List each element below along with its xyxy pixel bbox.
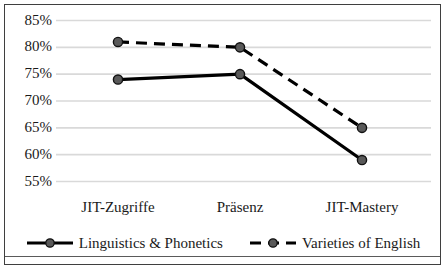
data-point-marker (357, 123, 366, 132)
series-line-2 (118, 42, 362, 128)
x-tick-label: JIT-Zugriffe (48, 199, 188, 215)
y-tick-label: 55% (8, 174, 52, 189)
y-tick-label: 60% (8, 147, 52, 162)
data-point-marker (113, 37, 122, 46)
legend-label: Varieties of English (302, 235, 420, 251)
data-point-marker (235, 43, 244, 52)
y-tick-label: 80% (8, 39, 52, 54)
legend-separator (5, 256, 440, 257)
legend-swatch (249, 236, 297, 250)
legend-swatch (26, 236, 74, 250)
legend-item-2: Varieties of English (249, 235, 420, 251)
data-point-marker (113, 75, 122, 84)
legend-label: Linguistics & Phonetics (79, 235, 223, 251)
y-tick-label: 70% (8, 93, 52, 108)
chart-figure: 85%80%75%70%65%60%55% JIT-ZugriffePräsen… (0, 0, 446, 270)
y-tick-label: 75% (8, 66, 52, 81)
data-point-marker (235, 70, 244, 79)
x-tick-label: JIT-Mastery (292, 199, 432, 215)
y-tick-label: 65% (8, 120, 52, 135)
data-point-marker (357, 155, 366, 164)
series-line-1 (118, 74, 362, 160)
chart-legend: Linguistics & PhoneticsVarieties of Engl… (12, 230, 434, 256)
legend-item-1: Linguistics & Phonetics (26, 235, 223, 251)
y-tick-label: 85% (8, 13, 52, 28)
x-tick-label: Präsenz (170, 199, 310, 215)
